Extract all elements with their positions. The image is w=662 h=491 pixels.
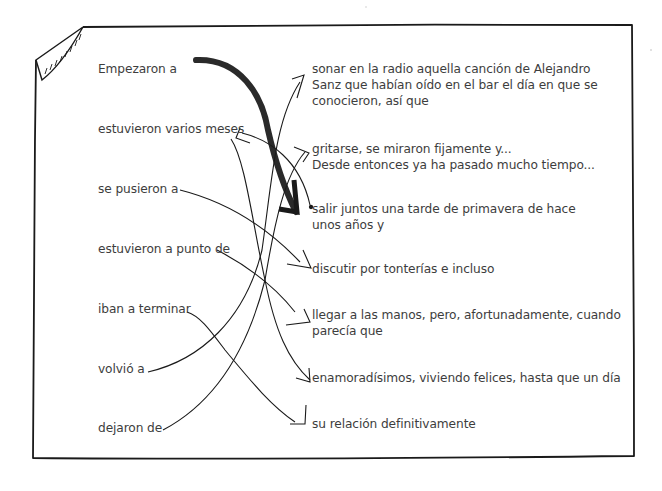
phrase-estuvieron-a-punto-de: estuvieron a punto de (98, 241, 230, 257)
ending-line: conocieron, así que (312, 93, 598, 109)
ending-llegar-a-las-manos: llegar a las manos, pero, afortunadament… (312, 307, 621, 339)
ending-salir-juntos: salir juntos una tarde de primavera de h… (312, 201, 576, 233)
ending-line: unos años y (312, 217, 576, 233)
ending-enamoradisimos: enamoradísimos, viviendo felices, hasta … (312, 370, 621, 386)
ending-discutir: discutir por tonterías e incluso (312, 261, 494, 277)
ending-line: salir juntos una tarde de primavera de h… (312, 201, 576, 217)
ending-line: Sanz que habían oído en el bar el día en… (312, 77, 598, 93)
ending-line: discutir por tonterías e incluso (312, 261, 494, 277)
phrase-dejaron-de: dejaron de (98, 420, 162, 436)
phrase-empezaron-a: Empezaron a (98, 61, 177, 77)
ending-line: enamoradísimos, viviendo felices, hasta … (312, 370, 621, 386)
folded-corner-icon (36, 27, 83, 80)
ending-sonar: sonar en la radio aquella canción de Ale… (312, 61, 598, 109)
ending-line: Desde entonces ya ha pasado mucho tiempo… (312, 157, 595, 173)
ending-line: gritarse, se miraron fijamente y... (312, 141, 595, 157)
ending-line: llegar a las manos, pero, afortunadament… (312, 307, 621, 323)
phrase-volvio-a: volvió a (98, 361, 145, 377)
phrase-se-pusieron-a: se pusieron a (98, 181, 178, 197)
ending-line: parecía que (312, 323, 621, 339)
matching-worksheet: Empezaron a estuvieron varios meses se p… (0, 0, 662, 491)
ending-line: sonar en la radio aquella canción de Ale… (312, 61, 598, 77)
phrase-estuvieron-varios-meses: estuvieron varios meses (98, 121, 244, 137)
phrase-iban-a-terminar: iban a terminar (98, 301, 191, 317)
ending-line: su relación definitivamente (312, 416, 476, 432)
ending-gritarse: gritarse, se miraron fijamente y... Desd… (312, 141, 595, 173)
ending-su-relacion: su relación definitivamente (312, 416, 476, 432)
